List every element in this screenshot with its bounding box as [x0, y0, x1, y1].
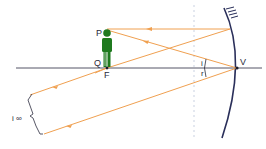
label-image-infinity: i ∞ [12, 114, 22, 123]
image-brace [28, 94, 43, 134]
concave-mirror [222, 8, 236, 138]
ray-f-to-mirror [107, 29, 230, 68]
ray-diagram: P Q F V i r i ∞ [0, 0, 266, 149]
label-v: V [240, 57, 246, 67]
reflected-ray-upper [30, 68, 107, 95]
label-i: i [201, 59, 203, 68]
label-p: P [96, 28, 102, 38]
object-person-figure [102, 29, 112, 67]
label-q: Q [94, 58, 101, 68]
label-r: r [201, 69, 204, 78]
reflected-ray-lower [44, 68, 237, 134]
vertex-point [235, 66, 238, 69]
label-f: F [104, 70, 110, 80]
focus-point [106, 67, 109, 70]
